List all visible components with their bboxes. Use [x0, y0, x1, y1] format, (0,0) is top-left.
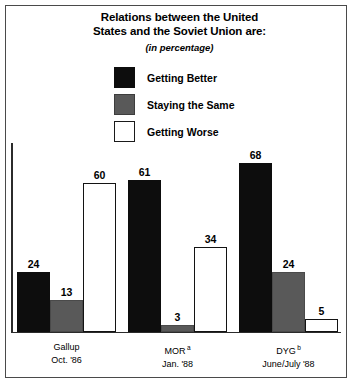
bar-g1-s0: [128, 180, 161, 332]
category-label-footnote-marker: b: [297, 344, 301, 351]
category-label-footnote-marker: a: [187, 344, 191, 351]
bar-value-label: 68: [239, 150, 272, 161]
bar-value-label: 60: [83, 170, 116, 181]
y-axis-line: [11, 143, 13, 333]
bar-value-label: 13: [50, 287, 83, 298]
category-label-2: DYGbJune/July '88: [219, 341, 359, 371]
category-label-line-1: DYGb: [219, 341, 359, 358]
bar-g0-s2: [83, 183, 116, 332]
bar-value-label: 34: [194, 234, 227, 245]
bar-g2-s0: [239, 163, 272, 332]
bar-value-label: 5: [305, 306, 338, 317]
bar-g1-s1: [161, 325, 194, 332]
bar-g1-s2: [194, 247, 227, 332]
bar-value-label: 3: [161, 312, 194, 323]
plot-area: 2413606133468245 GallupOct. '86MORaJan. …: [0, 0, 359, 388]
chart-figure: Relations between the United States and …: [0, 0, 359, 388]
bar-g2-s2: [305, 319, 338, 332]
bar-g0-s1: [50, 300, 83, 332]
bar-value-label: 61: [128, 167, 161, 178]
bar-value-label: 24: [17, 259, 50, 270]
category-label-line-2: June/July '88: [219, 358, 359, 371]
bar-g0-s0: [17, 272, 50, 332]
bar-g2-s1: [272, 272, 305, 332]
bar-value-label: 24: [272, 259, 305, 270]
